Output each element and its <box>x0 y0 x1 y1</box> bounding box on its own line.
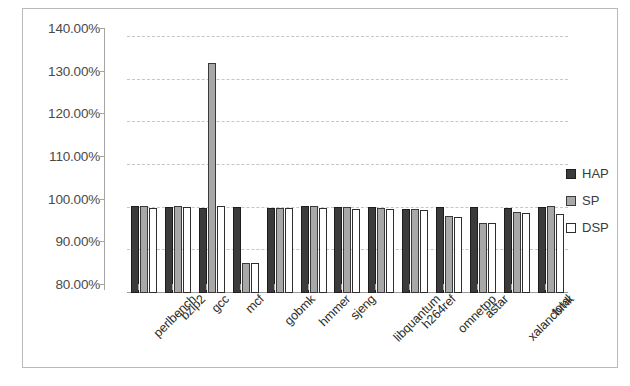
bar-hap <box>301 206 309 293</box>
y-axis-tick-label: 120.00% <box>26 106 100 121</box>
bar-hap <box>199 208 207 293</box>
bar-group <box>534 37 568 293</box>
bar-sp <box>377 208 385 293</box>
y-axis-tick-label: 80.00% <box>26 277 100 292</box>
x-axis-category-label: gobmk <box>282 292 318 328</box>
bar-sp <box>411 209 419 293</box>
bar-sp <box>140 206 148 293</box>
bar-sp <box>343 207 351 293</box>
bar-dsp <box>352 209 360 293</box>
bar-hap <box>504 208 512 293</box>
bar-dsp <box>488 223 496 293</box>
x-axis-tick-mark <box>545 284 546 290</box>
legend-label: SP <box>582 194 599 207</box>
x-axis-category-label: bzip2 <box>178 292 209 323</box>
y-axis-tick-labels: 140.00%130.00%120.00%110.00%100.00%90.00… <box>26 0 100 386</box>
bar-dsp <box>149 208 157 293</box>
legend-item-dsp[interactable]: DSP <box>566 214 628 241</box>
bar-hap <box>233 207 241 293</box>
y-axis-tick-label: 90.00% <box>26 234 100 249</box>
y-axis-tick-label: 130.00% <box>26 63 100 78</box>
bar-hap <box>368 207 376 293</box>
y-axis-tick-mark <box>99 28 105 29</box>
legend-item-sp[interactable]: SP <box>566 187 628 214</box>
bar-sp <box>445 216 453 293</box>
bar-dsp <box>420 210 428 293</box>
x-axis-tick-mark <box>274 284 275 290</box>
legend-item-hap[interactable]: HAP <box>566 160 628 187</box>
y-axis-tick-mark <box>99 241 105 242</box>
x-axis-tick-mark <box>375 284 376 290</box>
x-axis-tick-mark <box>511 284 512 290</box>
bar-hap <box>165 207 173 293</box>
y-axis-tick-label: 110.00% <box>26 149 100 164</box>
y-axis-tick-label: 100.00% <box>26 191 100 206</box>
x-axis-tick-mark <box>477 284 478 290</box>
bar-dsp <box>454 217 462 293</box>
x-axis-tick-mark <box>104 284 105 290</box>
x-axis-category-labels: perlbenchbzip2gccmcfgobmkhmmersjenglibqu… <box>104 292 545 382</box>
bar-group <box>263 37 297 293</box>
bar-sp <box>174 206 182 293</box>
bar-group <box>500 37 534 293</box>
bar-group <box>432 37 466 293</box>
bar-hap <box>538 207 546 293</box>
legend-label: HAP <box>582 167 609 180</box>
legend-swatch-icon <box>566 196 576 206</box>
bar-group <box>229 37 263 293</box>
y-axis-tick-mark <box>99 199 105 200</box>
bar-hap <box>131 206 139 293</box>
legend-swatch-icon <box>566 169 576 179</box>
bar-group <box>398 37 432 293</box>
bar-group <box>364 37 398 293</box>
x-axis-tick-mark <box>138 284 139 290</box>
chart-legend: HAPSPDSP <box>566 160 628 241</box>
x-axis-tick-mark <box>409 284 410 290</box>
x-axis-tick-mark <box>172 284 173 290</box>
bar-hap <box>267 208 275 293</box>
bar-dsp <box>217 206 225 293</box>
x-axis-tick-marks <box>104 284 545 291</box>
legend-label: DSP <box>582 221 609 234</box>
bar-dsp <box>285 208 293 293</box>
x-axis-tick-mark <box>308 284 309 290</box>
bar-group <box>127 37 161 293</box>
bar-sp <box>276 208 284 293</box>
bar-group <box>466 37 500 293</box>
bar-sp <box>208 63 216 293</box>
y-axis-tick-label: 140.00% <box>26 21 100 36</box>
legend-swatch-icon <box>566 223 576 233</box>
x-axis-tick-mark <box>206 284 207 290</box>
x-axis-category-label: gcc <box>209 292 232 315</box>
y-axis-tick-mark <box>99 113 105 114</box>
bar-sp <box>513 212 521 293</box>
x-axis-category-label: hmmer <box>316 292 353 329</box>
y-axis-tick-mark <box>99 71 105 72</box>
bar-group <box>297 37 331 293</box>
bar-dsp <box>183 207 191 293</box>
bar-dsp <box>522 213 530 293</box>
bar-dsp <box>386 209 394 293</box>
bar-dsp <box>319 208 327 293</box>
bar-hap <box>436 207 444 293</box>
y-axis-tick-mark <box>99 156 105 157</box>
plot-area <box>127 37 568 293</box>
bar-sp <box>479 223 487 293</box>
bar-dsp <box>556 214 564 293</box>
x-axis-tick-mark <box>443 284 444 290</box>
x-axis-tick-mark <box>341 284 342 290</box>
bar-sp <box>547 206 555 293</box>
bar-group <box>195 37 229 293</box>
bar-hap <box>334 207 342 293</box>
bar-sp <box>310 206 318 293</box>
bar-hap <box>402 209 410 293</box>
bar-group <box>331 37 365 293</box>
x-axis-category-label: sjeng <box>347 292 378 323</box>
x-axis-tick-mark <box>240 284 241 290</box>
bar-group <box>161 37 195 293</box>
bar-hap <box>470 207 478 293</box>
x-axis-category-label: mcf <box>243 292 267 316</box>
